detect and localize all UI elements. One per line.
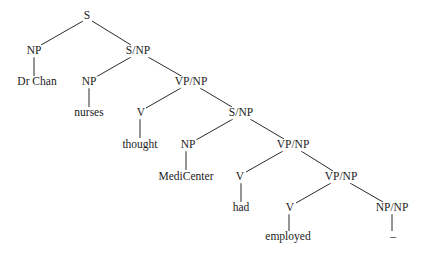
node-vp-slash-np-1: VP/NP [174, 76, 209, 88]
tree-edge-n6-n9 [200, 88, 232, 107]
node-s-slash-np-2: S/NP [228, 107, 254, 119]
node-vp-slash-np-3: VP/NP [324, 171, 359, 183]
node-vp-slash-np-2: VP/NP [276, 139, 311, 151]
word-had: had [232, 202, 251, 214]
tree-edge-n6-n7 [146, 88, 181, 108]
node-np-subject: NP [26, 45, 43, 57]
tree-edge-n9-n10 [196, 119, 233, 140]
tree-edge-n15-n18 [350, 183, 383, 202]
syntax-tree-diagram: S NP Dr Chan S/NP NP nurses VP/NP V thou… [0, 0, 422, 255]
node-s-slash-np: S/NP [125, 45, 151, 57]
gap-trace: – [389, 231, 397, 243]
node-np-medicenter: NP [180, 139, 197, 151]
tree-edge-n3-n4 [96, 57, 131, 77]
node-v-thought: V [136, 107, 146, 119]
node-np-nurses: NP [81, 76, 98, 88]
tree-edge-n12-n13 [246, 151, 283, 172]
tree-edge-n0-n3 [92, 21, 131, 45]
word-thought: thought [121, 139, 158, 151]
node-s-root: S [83, 10, 91, 22]
word-nurses: nurses [73, 107, 104, 119]
node-np-slash-np: NP/NP [375, 202, 410, 214]
tree-edge-n12-n15 [301, 151, 333, 171]
tree-edge-n3-n6 [148, 57, 183, 77]
word-medicenter: MediCenter [158, 171, 215, 183]
tree-edge-n0-n1 [41, 21, 83, 45]
node-v-had: V [235, 171, 245, 183]
tree-edge-n9-n12 [250, 119, 284, 139]
node-v-employed: V [285, 202, 295, 214]
word-employed: employed [264, 231, 311, 243]
tree-edges [0, 0, 422, 255]
word-dr-chan: Dr Chan [16, 76, 57, 88]
tree-edge-n15-n16 [296, 183, 331, 203]
